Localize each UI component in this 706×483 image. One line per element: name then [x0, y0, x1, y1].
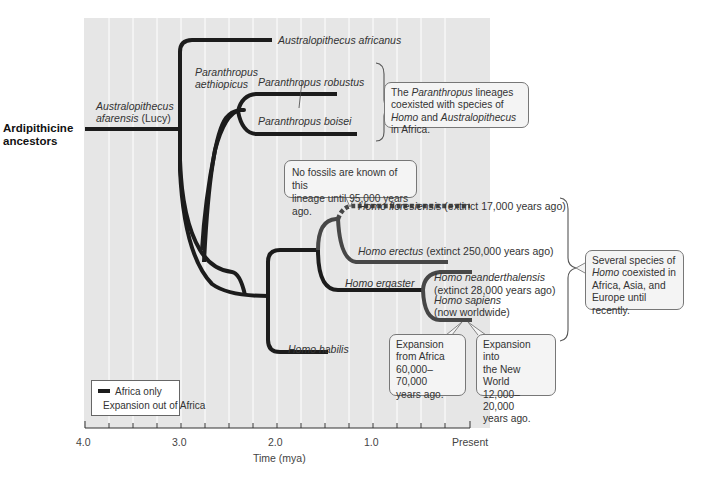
- callout-tail-homo-coexist: [576, 263, 585, 273]
- label-aethiopicus-line2: aethiopicus: [195, 78, 249, 90]
- axis-tick-present: Present: [452, 436, 488, 448]
- label-neanderthalensis-name: Homo neanderthalensis: [434, 271, 546, 283]
- root-label-ardipithicine: Ardipithicine ancestors: [3, 122, 73, 148]
- label-afarensis-line1: Australopithecus: [95, 100, 174, 112]
- axis-tick-4: 4.0: [76, 436, 91, 448]
- axis-tick-3: 3.0: [172, 436, 187, 448]
- label-afarensis-line2: afarensis (Lucy): [96, 112, 171, 124]
- label-robustus: Paranthropus robustus: [258, 76, 365, 88]
- label-aethiopicus-line1: Paranthropus: [195, 66, 259, 78]
- callout-no-fossils: No fossils are known of this lineage unt…: [284, 160, 417, 198]
- label-ergaster: Homo ergaster: [345, 277, 415, 289]
- callout-expansion-from-africa: Expansion from Africa 60,000–70,000 year…: [389, 334, 466, 396]
- legend: Africa only Expansion out of Africa: [91, 380, 180, 416]
- label-habilis: Homo habilis: [288, 343, 349, 355]
- legend-item-expansion: Expansion out of Africa: [98, 398, 173, 412]
- axis-tick-1: 1.0: [364, 436, 379, 448]
- label-africanus: Australopithecus africanus: [277, 34, 402, 46]
- label-sapiens-name: Homo sapiens: [434, 294, 502, 306]
- label-boisei: Paranthropus boisei: [258, 115, 352, 127]
- legend-item-africa-only: Africa only: [98, 384, 173, 398]
- label-erectus: Homo erectus (extinct 250,000 years ago): [358, 245, 554, 257]
- callout-expansion-new-world: Expansion into the New World 12,000–20,0…: [476, 334, 556, 396]
- callout-paranthropus-coexisted: The Paranthropus lineages coexisted with…: [384, 82, 529, 128]
- axis-tick-2: 2.0: [268, 436, 283, 448]
- hominin-phylogeny-diagram: Australopithecus africanus Paranthropus …: [0, 0, 706, 483]
- brace-homo: [560, 198, 576, 341]
- label-sapiens-note: (now worldwide): [434, 306, 510, 318]
- legend-swatch-africa-only: [98, 389, 110, 393]
- callout-homo-coexisted: Several species of Homo coexisted in Afr…: [585, 250, 684, 310]
- axis-title: Time (mya): [253, 452, 306, 464]
